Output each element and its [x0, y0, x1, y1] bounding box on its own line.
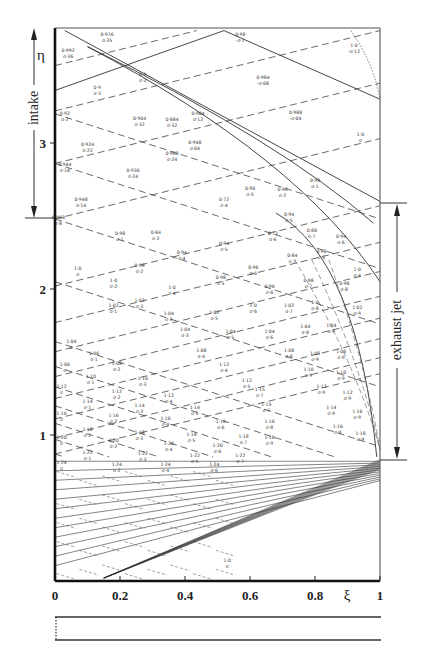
- cell-value-label: 0·98: [134, 263, 144, 268]
- cell-sigma-label: σ·5: [220, 247, 227, 252]
- cell-sigma-label: σ·8: [311, 306, 318, 311]
- cell-value-label: 1·12: [219, 362, 229, 367]
- cell-value-label: 1·04: [66, 339, 76, 344]
- cell-value-label: 1·22: [138, 451, 148, 456]
- fan-line: [55, 470, 380, 509]
- cell-value-label: 1·18: [264, 435, 274, 440]
- cell-value-label: 1·22: [190, 453, 200, 458]
- cell-value-label: 1·06: [336, 349, 346, 354]
- hatch-segment: [102, 495, 122, 501]
- hatch-segment: [102, 565, 122, 571]
- cell-sigma-label: σ·9: [328, 411, 335, 416]
- exhaust-arrow-up-icon: [394, 204, 400, 216]
- cell-sigma-label: σ·9: [318, 390, 325, 395]
- cell-value-label: 1·10: [336, 370, 346, 375]
- hatch-segment: [57, 542, 77, 548]
- cell-sigma-label: σ·7: [256, 393, 263, 398]
- hatch-segment: [57, 472, 77, 478]
- cell-sigma-label: σ·1: [87, 380, 94, 385]
- hatch-segment: [170, 565, 190, 571]
- cell-sigma-label: σ·2: [110, 444, 117, 449]
- cell-value-label: 0·98: [310, 178, 320, 183]
- cell-value-label: 1·22: [82, 450, 92, 455]
- cell-sigma-label: σ: [60, 417, 63, 422]
- cell-value-label: 1·12: [316, 384, 326, 389]
- cell-sigma-label: σ·8: [285, 354, 292, 359]
- cell-value-label: 0·84: [151, 230, 161, 235]
- cell-sigma-label: σ·6: [250, 271, 257, 276]
- cell-sigma-label: σ·2: [279, 193, 286, 198]
- cell-sigma-label: σ·22: [82, 148, 92, 153]
- cell-value-label: 0·9: [139, 72, 146, 77]
- cell-value-label: 0·948: [188, 140, 201, 145]
- cell-value-label: 0·9: [94, 85, 101, 90]
- cell-sigma-label: σ·6: [337, 240, 344, 245]
- intake-arrow-up-icon: [31, 28, 37, 40]
- cell-value-label: 0·72: [219, 197, 229, 202]
- cell-sigma-label: σ·1: [110, 309, 117, 314]
- cell-sigma-label: σ·3: [136, 304, 143, 309]
- cell-value-label: 0·72: [268, 231, 278, 236]
- cell-sigma-label: σ·5: [243, 384, 250, 389]
- hatch-segment: [148, 569, 168, 575]
- cell-value-label: 1·24: [112, 462, 122, 467]
- cell-value-label: 0·96: [248, 265, 258, 270]
- cell-value-label: 1·16: [160, 416, 170, 421]
- hatch-segment: [79, 480, 99, 486]
- cell-value-label: 1·22: [235, 453, 245, 458]
- cell-value-label: 0·968: [165, 151, 178, 156]
- cell-sigma-label: σ·5: [227, 335, 234, 340]
- cell-value-label: 0·904: [133, 116, 146, 121]
- cell-value-label: 0·884: [165, 117, 178, 122]
- cell-value-label: 0·94: [336, 234, 346, 239]
- duct-sketch: [55, 617, 381, 640]
- cell-value-label: 1·14: [326, 405, 336, 410]
- cell-sigma-label: σ·1: [116, 237, 123, 242]
- cell-value-label: 1·0: [224, 558, 231, 563]
- cell-sigma-label: σ·6: [250, 309, 257, 314]
- cell-sigma-label: σ·7: [285, 309, 292, 314]
- y-tick-label: 2: [40, 282, 47, 297]
- cell-value-label: 0·96: [264, 284, 274, 289]
- rising-characteristic: [55, 83, 380, 163]
- hatch-segment: [102, 476, 122, 482]
- fan-ray: [104, 469, 380, 578]
- cell-value-label: 0·968: [52, 215, 65, 220]
- cell-value-label: 1·12: [342, 390, 352, 395]
- cell-value-label: 1·08: [112, 361, 122, 366]
- hatch-segment: [125, 504, 145, 510]
- cell-value-label: 0·98: [303, 278, 313, 283]
- cell-sigma-label: σ·2: [113, 468, 120, 473]
- cell-value-label: 1·08: [310, 351, 320, 356]
- cell-sigma-label: -σ·12: [348, 49, 360, 54]
- hatch-segment: [79, 550, 99, 556]
- cell-value-label: 1·0: [350, 43, 357, 48]
- x-tick-label: 0.2: [112, 588, 128, 603]
- cell-value-label: 1·15: [261, 402, 271, 407]
- cell-value-label: 0·904: [191, 111, 204, 116]
- cell-sigma-label: σ·6: [211, 468, 218, 473]
- hatch-segment: [170, 495, 190, 501]
- cell-value-label: 1·04: [225, 329, 235, 334]
- cell-sigma-label: σ·9: [337, 376, 344, 381]
- cell-value-label: 1·06: [89, 351, 99, 356]
- cell-value-label: 0·944: [58, 162, 71, 167]
- cell-sigma-label: σ·5: [188, 438, 195, 443]
- fan-line: [55, 479, 380, 556]
- cell-sigma-label: σ·1: [90, 357, 97, 362]
- cell-value-label: 1·15: [255, 387, 265, 392]
- cell-value-label: 0·94: [177, 250, 187, 255]
- cell-sigma-label: σ·3: [94, 91, 101, 96]
- fan-line: [55, 472, 380, 518]
- characteristics-diagram: 0·992σ·360·976σ·350·98-σ·10·9σ·30·9σ·20·…: [0, 0, 427, 665]
- cell-sigma-label: σ·4: [162, 468, 169, 473]
- hatch-segment: [216, 569, 236, 575]
- hatch-segment: [79, 569, 99, 575]
- cell-value-label: 0·88: [307, 228, 317, 233]
- cell-value-label: 1·0: [354, 267, 361, 272]
- cell-sigma-label: σ·1: [311, 184, 318, 189]
- cell-sigma-label: σ·9: [328, 329, 335, 334]
- cell-sigma-label: σ·4: [220, 203, 227, 208]
- cell-value-label: 1·08: [284, 348, 294, 353]
- intake-arrow-down-icon: [31, 206, 37, 218]
